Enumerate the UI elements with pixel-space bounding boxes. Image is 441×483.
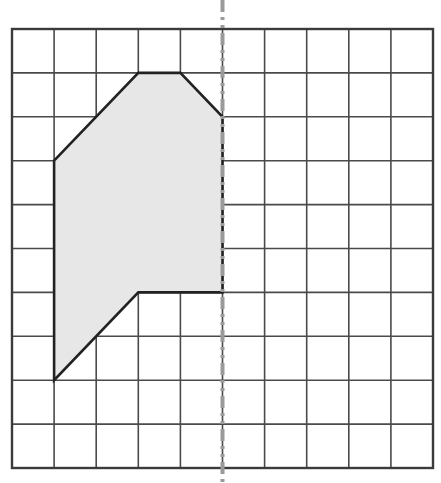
figure-root: A light grey shaded polygon drawn on a 1… [0,0,441,483]
grid-diagram-svg [0,0,441,483]
